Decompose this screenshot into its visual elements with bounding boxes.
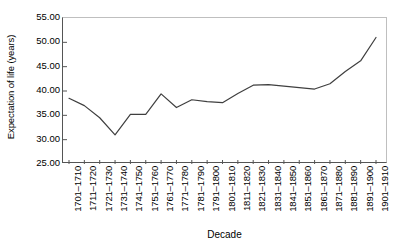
x-tick-label: 1721–1730 xyxy=(103,166,114,226)
x-tick-label: 1901–1910 xyxy=(379,166,390,226)
y-tick-label: 55.00 xyxy=(16,12,60,22)
y-tick-label: 35.00 xyxy=(16,109,60,119)
y-tick-label: 50.00 xyxy=(16,36,60,46)
x-tick-label: 1751–1760 xyxy=(149,166,160,226)
x-tick-label: 1741–1750 xyxy=(133,166,144,226)
x-tick-label: 1871–1880 xyxy=(333,166,344,226)
plot-area xyxy=(62,17,387,163)
x-tick-label: 1711–1720 xyxy=(87,166,98,226)
x-tick-label: 1701–1710 xyxy=(72,166,83,226)
x-axis-title: Decade xyxy=(62,229,387,241)
y-tick-label: 40.00 xyxy=(16,85,60,95)
life-expectancy-line xyxy=(69,37,376,134)
x-tick-label: 1891–1900 xyxy=(364,166,375,226)
y-tick-label: 45.00 xyxy=(16,61,60,71)
y-tick-label: 25.00 xyxy=(16,158,60,168)
chart-figure: Expectation of life (years) 25.0030.0035… xyxy=(0,0,400,248)
x-tick-label: 1761–1770 xyxy=(164,166,175,226)
y-tick-label: 30.00 xyxy=(16,134,60,144)
x-tick-label: 1851–1860 xyxy=(302,166,313,226)
x-tick-label: 1801–1810 xyxy=(226,166,237,226)
x-tick-label: 1881–1890 xyxy=(348,166,359,226)
x-tick-label: 1861–1870 xyxy=(318,166,329,226)
x-tick-label: 1791–1800 xyxy=(210,166,221,226)
x-tick-label: 1831–1840 xyxy=(272,166,283,226)
line-series-svg xyxy=(63,18,388,164)
x-tick-label: 1781–1790 xyxy=(195,166,206,226)
x-tick-label: 1821–1830 xyxy=(256,166,267,226)
x-axis-tick-labels: 1701–17101711–17201721–17301731–17401741… xyxy=(62,166,387,228)
x-tick-label: 1841–1850 xyxy=(287,166,298,226)
x-tick-label: 1731–1740 xyxy=(118,166,129,226)
y-axis-tick-labels: 25.0030.0035.0040.0045.0050.0055.00 xyxy=(16,10,60,170)
x-tick-label: 1771–1780 xyxy=(179,166,190,226)
x-tick-label: 1811–1820 xyxy=(241,166,252,226)
